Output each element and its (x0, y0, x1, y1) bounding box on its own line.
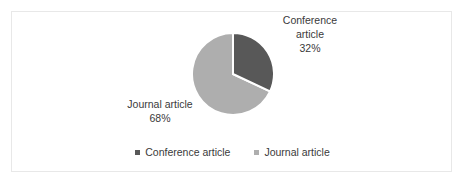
legend-item-journal-article[interactable]: Journal article (254, 146, 329, 159)
legend-label-journal-article: Journal article (264, 146, 329, 159)
pie-label-conference-article: Conference article 32% (262, 13, 358, 55)
pie-chart-figure: Conference article 32% Journal article 6… (0, 0, 465, 186)
pie-label-conference-line2: article (262, 27, 358, 41)
pie-label-conference-line1: Conference (262, 13, 358, 27)
chart-legend: Conference article Journal article (0, 146, 465, 159)
legend-label-conference-article: Conference article (145, 146, 230, 159)
pie-label-journal-line1: Journal article (112, 97, 208, 111)
legend-item-conference-article[interactable]: Conference article (135, 146, 230, 159)
pie-label-journal-value: 68% (112, 111, 208, 125)
square-marker-icon-conference (135, 150, 140, 155)
pie-label-conference-value: 32% (262, 41, 358, 55)
pie-label-journal-article: Journal article 68% (112, 97, 208, 125)
square-marker-icon-journal (254, 150, 259, 155)
